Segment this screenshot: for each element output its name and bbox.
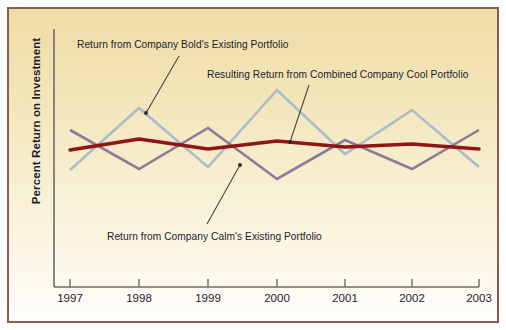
annotation-cool-label: Resulting Return from Combined Company C… bbox=[207, 69, 468, 80]
leader-dot-cool bbox=[288, 140, 292, 144]
annotation-bold-label: Return from Company Bold's Existing Port… bbox=[77, 39, 288, 50]
leader-dot-bold bbox=[144, 111, 148, 115]
x-tick-label-2002: 2002 bbox=[387, 292, 437, 304]
leader-dot-calm bbox=[238, 163, 242, 167]
leader-line-bold bbox=[146, 56, 179, 113]
series-line-cool bbox=[70, 139, 479, 150]
x-tick-label-1999: 1999 bbox=[183, 292, 233, 304]
x-tick-label-2001: 2001 bbox=[320, 292, 370, 304]
y-axis-label: Percent Return on Investment bbox=[30, 36, 42, 206]
x-tick-label-1998: 1998 bbox=[114, 292, 164, 304]
series-line-bold bbox=[70, 90, 479, 170]
plot-area: Percent Return on Investment Return from… bbox=[9, 9, 497, 321]
x-tick-label-1997: 1997 bbox=[45, 292, 95, 304]
series-line-calm bbox=[70, 128, 479, 179]
x-tick-label-2000: 2000 bbox=[252, 292, 302, 304]
leader-line-calm bbox=[207, 165, 240, 224]
leader-line-cool bbox=[290, 85, 309, 142]
annotation-calm-label: Return from Company Calm's Existing Port… bbox=[107, 231, 322, 242]
chart-svg bbox=[9, 9, 497, 321]
chart-figure: Percent Return on Investment Return from… bbox=[7, 7, 499, 323]
x-tick-label-2003: 2003 bbox=[454, 292, 499, 304]
x-tick-marks bbox=[70, 279, 479, 287]
